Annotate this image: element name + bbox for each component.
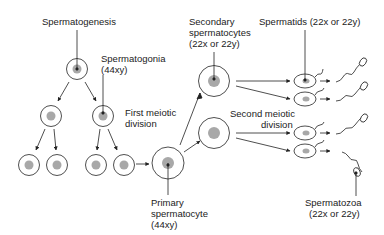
label-spermatogonia-chromosomes: (44xy) <box>101 64 127 75</box>
label-primary-chromosomes: (44xy) <box>151 219 177 230</box>
label-secondary: Secondary <box>189 16 234 27</box>
label-primary: Primary <box>151 197 184 208</box>
label-spermatogenesis: Spermatogenesis <box>42 16 116 27</box>
label-first-meiotic: First meiotic <box>125 107 176 118</box>
label-spermatocyte: spermatocyte <box>151 208 208 219</box>
label-spermatozoa: Spermatozoa <box>305 197 362 208</box>
label-spermatogonia: Spermatogonia <box>101 53 165 64</box>
label-second-meiotic: Second meiotic <box>230 108 295 119</box>
label-spermatozoa-chromosomes: (22x or 22y) <box>309 208 360 219</box>
label-secondary-chromosomes: (22x or 22y) <box>189 38 240 49</box>
label-spermatids: Spermatids (22x or 22y) <box>259 16 360 27</box>
label-second-meiotic-division: division <box>261 119 293 130</box>
label-spermatocytes: spermatocytes <box>189 27 251 38</box>
label-first-meiotic-division: division <box>125 118 157 129</box>
